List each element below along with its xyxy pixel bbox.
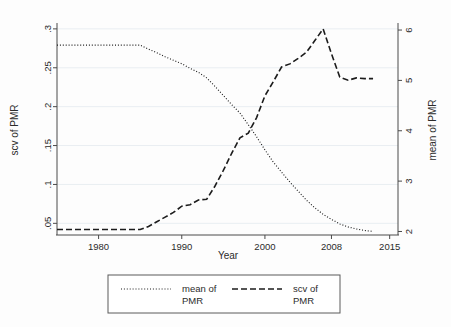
y2-tick-label-4: 6 xyxy=(403,27,414,32)
y2-tick-label-3: 5 xyxy=(403,78,414,83)
y-tick-label-3: .2 xyxy=(42,103,53,111)
y-tick-label-2: .15 xyxy=(42,139,53,152)
y-axis-right-title: mean of PMR xyxy=(427,99,438,160)
x-axis-title: Year xyxy=(218,250,239,261)
chart-container: 19801990200020082015 .05.1.15.2.25.3 234… xyxy=(0,0,451,327)
y2-tick-label-1: 3 xyxy=(403,178,414,183)
y-axis-left-title: scv of PMR xyxy=(9,104,20,155)
y-tick-label-1: .1 xyxy=(42,180,53,188)
x-tick-label-2008: 2008 xyxy=(321,241,342,252)
legend-label-scv-line1: scv of xyxy=(293,283,318,294)
chart-legend: mean of PMR scv of PMR xyxy=(108,275,340,313)
x-tick-label-1980: 1980 xyxy=(88,241,109,252)
y-tick-label-4: .25 xyxy=(42,61,53,74)
x-tick-label-2000: 2000 xyxy=(254,241,275,252)
legend-label-mean-line1: mean of xyxy=(182,283,217,294)
legend-box xyxy=(108,275,340,313)
y2-tick-label-0: 2 xyxy=(403,229,414,234)
y-tick-label-0: .05 xyxy=(42,217,53,230)
y2-tick-label-2: 4 xyxy=(403,128,414,133)
x-tick-label-2015: 2015 xyxy=(379,241,400,252)
legend-label-mean-line2: PMR xyxy=(182,295,203,306)
x-tick-label-1990: 1990 xyxy=(171,241,192,252)
y-tick-label-5: .3 xyxy=(42,25,53,33)
dual-axis-line-chart: 19801990200020082015 .05.1.15.2.25.3 234… xyxy=(0,0,451,327)
legend-label-scv-line2: PMR xyxy=(293,295,314,306)
